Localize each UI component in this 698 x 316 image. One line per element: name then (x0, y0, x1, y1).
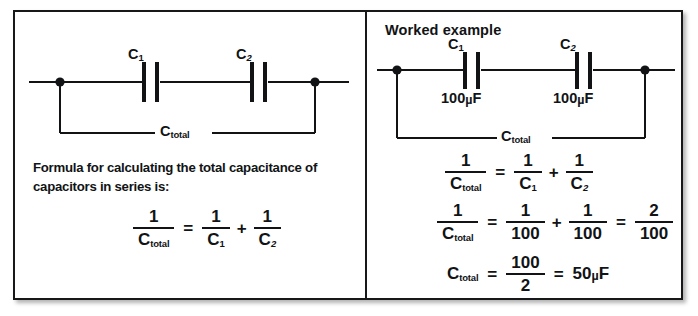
equals-sign: = (174, 219, 202, 239)
equals-sign-1: = (478, 213, 506, 233)
series-capacitance-formula: 1 Ctotal = 1 C1 + 1 C2 (133, 208, 281, 248)
panel-series-formula: C1 C2 Ctotal Formula for calculating the… (15, 12, 365, 298)
term2-fraction: 1 100 (569, 202, 607, 242)
equals-sign-2: = (607, 213, 635, 233)
capacitor1-label: C1 (128, 46, 144, 62)
equals-sign-1: = (478, 265, 506, 285)
equation-row-2: 1 Ctotal = 1 100 + 1 100 = 2 (437, 202, 673, 242)
term1-fraction: 1 C1 (514, 152, 541, 192)
term3-fraction: 2 100 (635, 202, 673, 242)
capacitor2-label: C2 (236, 46, 252, 62)
figure-frame: C1 C2 Ctotal Formula for calculating the… (13, 10, 683, 300)
description-text: Formula for calculating the total capaci… (33, 158, 353, 196)
capacitor1-value-label: 100µF (441, 90, 481, 106)
result-value: 50µF (573, 264, 610, 284)
equals-sign-2: = (545, 265, 573, 285)
result-lhs-symbol: Ctotal (447, 264, 478, 284)
total-capacitance-label: Ctotal (160, 123, 190, 139)
plus-sign: + (230, 219, 254, 239)
equation-row-3: Ctotal = 100 2 = 50µF (447, 254, 609, 294)
lhs-fraction: 1 Ctotal (445, 152, 486, 192)
capacitor2-value-label: 100µF (553, 90, 593, 106)
lhs-fraction: 1 Ctotal (437, 202, 478, 242)
formula-term2-fraction: 1 C2 (254, 208, 281, 248)
equals-sign: = (486, 163, 514, 183)
series-circuit-diagram: C1 C2 Ctotal (27, 30, 352, 145)
plus-sign: + (542, 163, 566, 183)
total-capacitance-label: Ctotal (501, 128, 531, 144)
term1-fraction: 1 100 (506, 202, 544, 242)
plus-sign: + (545, 213, 569, 233)
description-line-2: capacitors in series is: (33, 177, 353, 196)
capacitor2-label: C2 (560, 36, 576, 52)
formula-term1-fraction: 1 C1 (202, 208, 229, 248)
worked-example-circuit-diagram: C1 C2 100µF 100µF Ctotal (377, 42, 677, 150)
result-fraction: 100 2 (506, 254, 544, 294)
formula-lhs-fraction: 1 Ctotal (133, 208, 174, 248)
capacitor1-label: C1 (448, 36, 464, 52)
description-line-1: Formula for calculating the total capaci… (33, 158, 353, 177)
worked-example-title: Worked example (385, 22, 501, 38)
term2-fraction: 1 C2 (566, 152, 593, 192)
panel-worked-example: Worked example C1 C2 (365, 12, 681, 298)
equation-row-1: 1 Ctotal = 1 C1 + 1 C2 (445, 152, 593, 192)
